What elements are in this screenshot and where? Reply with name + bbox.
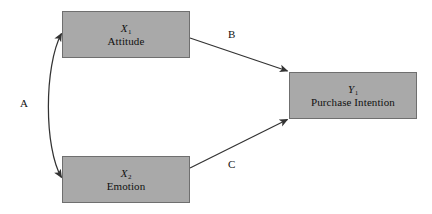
node-y1-purchase-intention: Y1 Purchase Intention: [289, 72, 417, 119]
edge-label-b: B: [228, 28, 235, 40]
edge-b-arrow: [190, 38, 288, 71]
node-x1-label: Attitude: [108, 35, 145, 47]
node-y1-label: Purchase Intention: [311, 96, 395, 108]
node-y1-symbol: Y1: [348, 83, 358, 96]
path-diagram: X1 Attitude X2 Emotion Y1 Purchase Inten…: [0, 0, 432, 214]
node-x1-attitude: X1 Attitude: [62, 11, 190, 58]
node-x2-label: Emotion: [107, 180, 146, 192]
edge-label-c: C: [228, 158, 235, 170]
edge-label-a: A: [20, 97, 28, 109]
node-x2-symbol: X2: [121, 167, 132, 180]
node-x2-emotion: X2 Emotion: [62, 156, 190, 203]
edge-a-curved-double-arrow: [48, 34, 61, 178]
node-x1-symbol: X1: [121, 22, 132, 35]
edge-c-arrow: [190, 120, 288, 169]
